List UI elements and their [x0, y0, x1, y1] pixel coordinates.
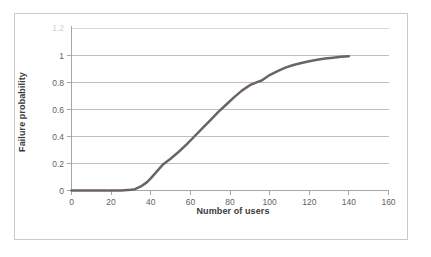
x-axis-title: Number of users	[133, 206, 333, 216]
y-tick-label-1: 1	[44, 51, 64, 60]
y-tick-label-0.8: 0.8	[44, 78, 64, 87]
y-tick-label-0.6: 0.6	[44, 105, 64, 114]
x-tick-label-160: 160	[381, 198, 395, 207]
data-series-failure-probability	[72, 56, 349, 190]
y-tick-label-1.2: 1.2	[44, 24, 64, 33]
x-tick-label-140: 140	[342, 198, 356, 207]
y-tick-label-0: 0	[44, 186, 64, 195]
y-axis-title: Failure probability	[17, 72, 27, 152]
failure-probability-chart: 1.2 1 0.8 0.6 0.4 0.2 0 0 20 40 60 80 10…	[0, 0, 431, 257]
page-root: 1.2 1 0.8 0.6 0.4 0.2 0 0 20 40 60 80 10…	[0, 0, 431, 257]
gridlines	[72, 29, 389, 164]
x-tick-label-20: 20	[106, 198, 115, 207]
x-tick-label-0: 0	[69, 198, 74, 207]
y-tick-label-0.2: 0.2	[44, 159, 64, 168]
y-tick-marks	[67, 56, 72, 191]
y-tick-label-0.4: 0.4	[44, 132, 64, 141]
chart-plot-svg	[0, 0, 431, 257]
